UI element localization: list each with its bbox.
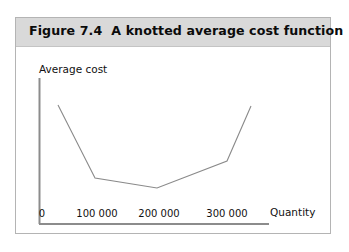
figure-title: Figure 7.4 A knotted average cost functi… — [29, 23, 343, 38]
x-tick-label-300000: 300 000 — [203, 208, 251, 219]
x-tick-label-100000: 100 000 — [73, 208, 121, 219]
figure-title-band: Figure 7.4 A knotted average cost functi… — [16, 18, 330, 47]
average-cost-curve — [58, 105, 251, 188]
x-tick-label-0: 0 — [36, 208, 48, 219]
x-tick-label-200000: 200 000 — [135, 208, 183, 219]
figure-container: Figure 7.4 A knotted average cost functi… — [0, 0, 349, 252]
plot-area: Average cost Quantity 0 100 000 200 000 … — [16, 47, 332, 234]
x-axis-label: Quantity — [270, 206, 315, 218]
figure-frame: Figure 7.4 A knotted average cost functi… — [15, 17, 331, 234]
y-axis-label: Average cost — [39, 63, 107, 75]
